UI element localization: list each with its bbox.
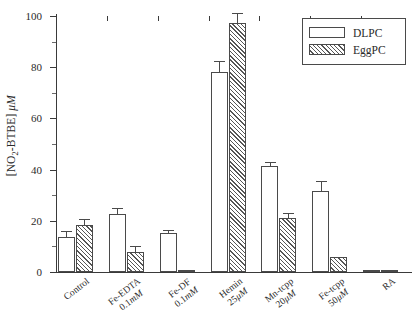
error-bar-cap bbox=[316, 181, 327, 182]
x-tick-label-6: RA bbox=[380, 276, 397, 292]
y-tick-major: 80 bbox=[50, 67, 56, 68]
error-bar-cap bbox=[232, 13, 243, 14]
bar-dlpc-4 bbox=[261, 166, 278, 272]
x-tick-label-4: Mn-tcpp20μM bbox=[263, 276, 302, 313]
legend-entry-dlpc: DLPC bbox=[309, 24, 399, 41]
y-tick-label: 40 bbox=[31, 164, 42, 176]
bar-dlpc-5 bbox=[312, 191, 329, 272]
x-tick bbox=[158, 16, 159, 21]
bar-dlpc-2 bbox=[160, 233, 177, 272]
y-axis-label-mid: -BTBE] bbox=[5, 111, 17, 152]
bar-eggpc-2 bbox=[178, 270, 195, 272]
x-tick-label-1: Fe-EDTA0.1mM bbox=[107, 276, 150, 316]
x-tick-label-3: Hemin25μM bbox=[217, 276, 251, 309]
bar-dlpc-0 bbox=[58, 237, 75, 272]
error-bar-stem bbox=[288, 214, 289, 218]
error-bar-stem bbox=[84, 220, 85, 226]
y-axis-label-prefix: [NO bbox=[5, 156, 17, 177]
bar-eggpc-5 bbox=[330, 257, 347, 272]
y-tick-label: 100 bbox=[26, 10, 43, 22]
error-bar-stem bbox=[321, 182, 322, 191]
error-bar-stem bbox=[237, 14, 238, 22]
y-tick-label: 0 bbox=[37, 266, 43, 278]
x-axis-line bbox=[56, 272, 412, 273]
bar-eggpc-6 bbox=[381, 270, 398, 272]
chart-figure: [NO2-BTBE] μM 020406080100 ControlFe-EDT… bbox=[0, 0, 418, 330]
y-axis-label: [NO2-BTBE] μM bbox=[0, 0, 26, 272]
error-bar-stem bbox=[270, 163, 271, 166]
bar-dlpc-3 bbox=[211, 72, 228, 272]
error-bar-stem bbox=[168, 231, 169, 233]
y-tick-minor bbox=[52, 195, 56, 196]
y-tick-label: 80 bbox=[31, 61, 42, 73]
x-tick-label-0: Control bbox=[62, 276, 92, 302]
y-tick-major: 60 bbox=[50, 118, 56, 119]
bar-eggpc-3 bbox=[229, 23, 246, 272]
error-bar-stem bbox=[135, 247, 136, 252]
error-bar-cap bbox=[61, 231, 72, 232]
bar-dlpc-1 bbox=[109, 214, 126, 272]
x-tick-label-5: Fe-tcpp50μM bbox=[317, 276, 353, 311]
y-tick-minor bbox=[52, 144, 56, 145]
y-tick-minor bbox=[52, 246, 56, 247]
error-bar-cap bbox=[214, 61, 225, 62]
error-bar-cap bbox=[79, 219, 90, 220]
x-tick bbox=[209, 16, 210, 21]
error-bar-stem bbox=[219, 62, 220, 72]
y-tick-label: 20 bbox=[31, 215, 42, 227]
bar-dlpc-6 bbox=[363, 270, 380, 272]
y-tick-label: 60 bbox=[31, 112, 42, 124]
error-bar-stem bbox=[117, 209, 118, 214]
error-bar-cap bbox=[112, 208, 123, 209]
error-bar-cap bbox=[130, 246, 141, 247]
x-tick bbox=[107, 16, 108, 21]
bar-eggpc-4 bbox=[279, 218, 296, 272]
error-bar-cap bbox=[265, 162, 276, 163]
error-bar-cap bbox=[283, 213, 294, 214]
legend-label-eggpc: EggPC bbox=[353, 44, 386, 56]
bar-eggpc-1 bbox=[127, 252, 144, 272]
x-tick bbox=[259, 16, 260, 21]
chart-legend: DLPC EggPC bbox=[302, 18, 406, 65]
open-bar-swatch-icon bbox=[309, 27, 345, 38]
x-tick-label-line1: Control bbox=[62, 275, 92, 302]
y-axis-label-subscript: 2 bbox=[12, 152, 21, 156]
error-bar-stem bbox=[66, 232, 67, 237]
y-tick-minor bbox=[52, 93, 56, 94]
y-tick-major: 0 bbox=[50, 272, 56, 273]
error-bar-cap bbox=[163, 230, 174, 231]
y-axis-label-unit: μM bbox=[5, 95, 17, 111]
y-tick-major: 20 bbox=[50, 221, 56, 222]
y-tick-major: 100 bbox=[50, 16, 56, 17]
legend-label-dlpc: DLPC bbox=[353, 27, 382, 39]
bar-eggpc-0 bbox=[76, 225, 93, 272]
x-tick-label-2: Fe-DF0.1mM bbox=[166, 276, 200, 309]
y-tick-major: 40 bbox=[50, 170, 56, 171]
hatched-bar-swatch-icon bbox=[309, 44, 345, 55]
y-tick-minor bbox=[52, 42, 56, 43]
x-tick-label-line1: RA bbox=[379, 275, 396, 292]
legend-entry-eggpc: EggPC bbox=[309, 41, 399, 58]
